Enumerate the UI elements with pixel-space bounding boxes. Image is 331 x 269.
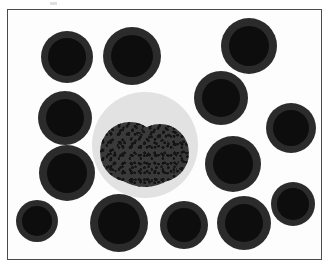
rbc-mid-left-lower <box>39 145 95 201</box>
rbc-mid-right <box>205 136 261 192</box>
erythrocyte-core <box>46 99 85 138</box>
rbc-bottom-center-l <box>90 194 148 252</box>
scan-artifact <box>50 2 57 5</box>
rbc-bottom-center-r <box>160 201 208 249</box>
erythrocyte-core <box>225 204 264 243</box>
rbc-bottom-left <box>16 200 58 242</box>
erythrocyte-core <box>167 208 202 243</box>
erythrocyte-core <box>48 38 85 75</box>
erythrocyte-core <box>202 79 241 118</box>
erythrocyte-core <box>277 188 309 220</box>
erythrocyte-core <box>273 110 309 146</box>
erythrocyte-core <box>98 202 140 244</box>
rbc-top-left <box>41 31 93 83</box>
micrograph-field <box>8 10 321 259</box>
micrograph-frame <box>7 9 322 260</box>
rbc-top-right <box>221 18 277 74</box>
bilobed-nucleus <box>92 92 198 198</box>
rbc-upper-right <box>194 71 248 125</box>
rbc-lower-right-edge <box>271 182 315 226</box>
rbc-bottom-right <box>217 196 271 250</box>
nucleus-lobe <box>112 135 178 187</box>
erythrocyte-core <box>22 206 52 236</box>
erythrocyte-core <box>111 35 153 77</box>
figure-root <box>0 0 331 269</box>
erythrocyte-core <box>213 144 253 184</box>
nucleus-granule-texture <box>112 135 178 187</box>
rbc-top-center <box>103 27 161 85</box>
erythrocyte-core <box>47 153 87 193</box>
rbc-mid-left-upper <box>38 91 92 145</box>
rbc-right-edge <box>266 103 316 153</box>
central-leukocyte <box>92 92 198 198</box>
erythrocyte-core <box>229 26 269 66</box>
